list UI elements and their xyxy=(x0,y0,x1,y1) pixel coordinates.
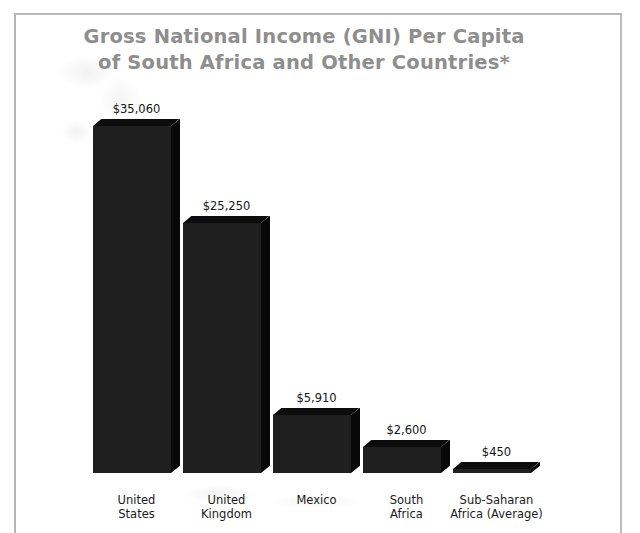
category-label-line: Sub-Saharan xyxy=(439,493,554,507)
bar-top-face xyxy=(363,440,449,447)
bar-group: $35,060 xyxy=(93,96,180,473)
bar-side-face xyxy=(351,408,360,473)
bar-side-face xyxy=(171,119,180,473)
bar-front-face xyxy=(363,447,441,473)
bar-front-face xyxy=(273,415,351,473)
bar-3d-block xyxy=(93,119,180,473)
bar-group: $5,910 xyxy=(273,385,360,473)
bar-top-face xyxy=(453,462,539,469)
bar-side-face xyxy=(261,216,270,473)
bar-value-label: $25,250 xyxy=(183,199,270,213)
chart-plot-area: $35,060UnitedStates$25,250UnitedKingdom$… xyxy=(16,13,622,525)
bar-front-face xyxy=(183,223,261,473)
bar-3d-block xyxy=(183,216,270,473)
category-label-line: Kingdom xyxy=(169,507,284,521)
bar-top-face xyxy=(183,216,269,223)
category-label-line: Africa (Average) xyxy=(439,507,554,521)
bar-value-label: $2,600 xyxy=(363,423,450,437)
bar-value-label: $5,910 xyxy=(273,391,360,405)
bar-group: $2,600 xyxy=(363,417,450,473)
bar-3d-block xyxy=(363,440,450,473)
bar-3d-block xyxy=(453,462,540,473)
bar-top-face xyxy=(273,408,359,415)
bar-value-label: $450 xyxy=(453,445,540,459)
bar-front-face xyxy=(453,469,531,473)
bar-group: $25,250 xyxy=(183,193,270,473)
bar-group: $450 xyxy=(453,439,540,473)
bar-top-face xyxy=(93,119,179,126)
bar-3d-block xyxy=(273,408,360,473)
category-label: Sub-SaharanAfrica (Average) xyxy=(439,493,554,521)
bar-side-face xyxy=(441,440,450,473)
bar-front-face xyxy=(93,126,171,473)
bar-value-label: $35,060 xyxy=(93,102,180,116)
